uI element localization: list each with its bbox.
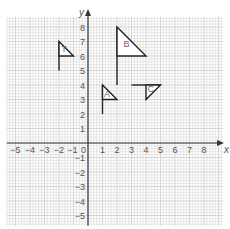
x-tick-label: −3 [39,145,49,155]
x-tick-label: 5 [158,145,163,155]
y-axis-arrow-icon [85,9,91,16]
flag-t: T [59,42,74,71]
y-tick-label: −1 [75,153,85,163]
y-tick-label: 8 [80,23,85,33]
x-tick-label: 8 [201,145,206,155]
y-tick-label: 5 [80,66,85,76]
x-tick-label: 1 [100,145,105,155]
flag-c: C [132,84,161,100]
grid-svg: x y 0 −5−4−3−2−112345678 87654321−1−2−3−… [0,0,230,229]
flag-label: T [61,44,67,54]
x-tick-label: 7 [187,145,192,155]
x-tick-label: 3 [129,145,134,155]
flag-label: C [147,84,154,94]
x-axis-label: x [223,144,230,155]
x-tick-label: 6 [172,145,177,155]
y-axis-label: y [78,7,85,18]
y-tick-label: −3 [75,182,85,192]
y-tick-label: 1 [80,124,85,134]
y-tick-label: 7 [80,37,85,47]
y-tick-label: 4 [80,81,85,91]
major-grid-lines [7,17,223,226]
x-tick-label: 4 [143,145,148,155]
x-tick-label: 2 [114,145,119,155]
x-tick-label: −5 [10,145,20,155]
y-tick-label: −4 [75,197,85,207]
flag-a: A [103,85,118,114]
flag-label: B [124,39,130,49]
minor-grid-lines [7,17,223,226]
x-tick-label: −4 [25,145,35,155]
coordinate-grid-diagram: x y 0 −5−4−3−2−112345678 87654321−1−2−3−… [0,0,230,229]
x-axis-arrow-icon [217,140,224,146]
y-tick-label: −2 [75,168,85,178]
y-tick-label: −5 [75,211,85,221]
y-tick-label: 2 [80,110,85,120]
y-tick-label: 6 [80,52,85,62]
x-tick-label: −2 [54,145,64,155]
y-tick-label: 3 [80,95,85,105]
flag-label: A [104,89,110,99]
